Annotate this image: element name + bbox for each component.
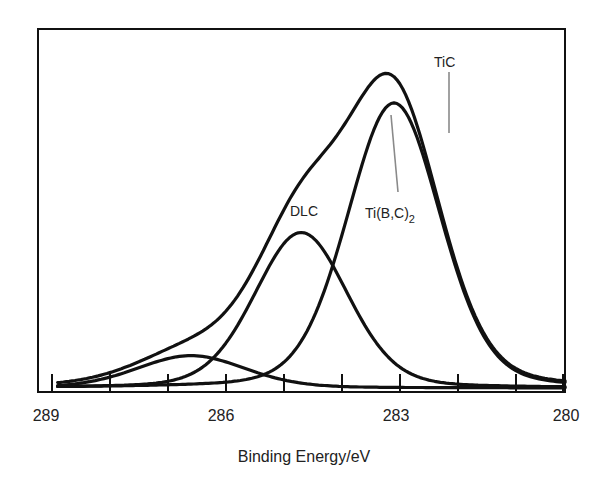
- tibc-label-subscript: 2: [409, 213, 415, 225]
- tick-label-286: 286: [208, 407, 235, 424]
- tic-label: TiC: [434, 54, 455, 70]
- fit-curves: [58, 73, 565, 387]
- tick-label-280: 280: [553, 407, 580, 424]
- tibc-leader-line: [391, 115, 398, 192]
- dlc-label: DLC: [290, 203, 318, 219]
- tibc-label-main: Ti(B,C): [365, 205, 409, 221]
- tick-label-283: 283: [383, 407, 410, 424]
- tick-label-289: 289: [33, 407, 60, 424]
- x-axis-label: Binding Energy/eV: [238, 448, 371, 465]
- tibc-label: Ti(B,C)2: [365, 205, 415, 225]
- minor-component-curve: [58, 356, 565, 388]
- envelope-curve: [58, 73, 565, 382]
- xps-chart: TiC DLC Ti(B,C)2 289 286 283 280 Binding…: [0, 0, 608, 491]
